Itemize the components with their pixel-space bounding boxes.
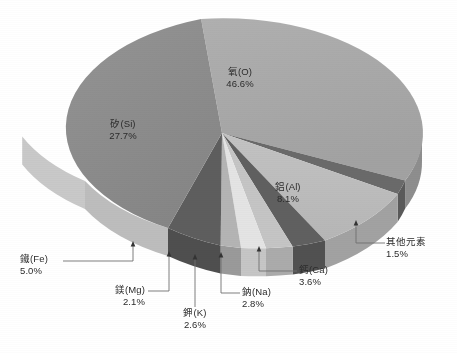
slice-label-oxygen-name: 氧(O) <box>205 66 275 78</box>
slice-label-calcium-name: 鈣(Ca) <box>299 264 359 276</box>
slice-label-sodium-value: 2.8% <box>242 298 302 310</box>
side-wall-magnesium <box>221 246 241 276</box>
slice-label-potassium-name: 鉀(K) <box>165 307 225 319</box>
slice-label-potassium: 鉀(K) 2.6% <box>165 307 225 331</box>
slice-label-iron: 鐵(Fe) 5.0% <box>20 253 82 277</box>
slice-label-sodium: 鈉(Na) 2.8% <box>242 286 302 310</box>
slice-label-oxygen: 氧(O) 46.6% <box>205 66 275 90</box>
slice-label-other: 其他元素 1.5% <box>386 236 456 260</box>
slice-label-iron-name: 鐵(Fe) <box>20 253 82 265</box>
slice-label-other-value: 1.5% <box>386 248 456 260</box>
slice-label-silicon: 矽(Si) 27.7% <box>88 118 158 142</box>
slice-label-aluminium-name: 鋁(Al) <box>256 181 320 193</box>
slice-label-aluminium: 鋁(Al) 8.1% <box>256 181 320 205</box>
side-wall-potassium <box>241 248 266 276</box>
slice-label-magnesium-name: 鎂(Mg) <box>83 284 145 296</box>
slice-label-sodium-name: 鈉(Na) <box>242 286 302 298</box>
slice-label-aluminium-value: 8.1% <box>256 193 320 205</box>
slice-label-magnesium-value: 2.1% <box>83 296 145 308</box>
slice-label-calcium: 鈣(Ca) 3.6% <box>299 264 359 288</box>
side-wall-sodium <box>266 247 293 277</box>
slice-label-magnesium: 鎂(Mg) 2.1% <box>83 284 145 308</box>
slice-label-iron-value: 5.0% <box>20 265 82 277</box>
slice-label-other-name: 其他元素 <box>386 236 456 248</box>
slice-label-calcium-value: 3.6% <box>299 276 359 288</box>
leader-line-magnesium <box>148 255 169 291</box>
slice-label-oxygen-value: 46.6% <box>205 78 275 90</box>
pie-chart-canvas <box>0 0 457 353</box>
pie-chart: 氧(O) 46.6% 矽(Si) 27.7% 鋁(Al) 8.1% 其他元素 1… <box>0 0 457 353</box>
slice-label-potassium-value: 2.6% <box>165 319 225 331</box>
slice-label-silicon-name: 矽(Si) <box>88 118 158 130</box>
slice-label-silicon-value: 27.7% <box>88 130 158 142</box>
